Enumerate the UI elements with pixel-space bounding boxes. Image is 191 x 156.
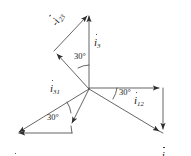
- angle-label-bottom-left: 30°: [47, 113, 59, 122]
- label-i3: i3: [94, 37, 191, 48]
- connector-i23-baseline: [71, 126, 72, 133]
- label-i12-sub: 12: [137, 100, 144, 107]
- connector-i1-to-neg-i31: [159, 131, 163, 133]
- label-i3-sub: 3: [97, 42, 100, 49]
- angle-label-top: 30°: [74, 52, 86, 61]
- angle-arc-top: [78, 65, 89, 68]
- phasor-dot-neg-i31: [163, 147, 165, 149]
- phasor-diagram: -i23 i3 i31 i12 -i31 i2 i23 -i12 i1 30° …: [0, 0, 191, 156]
- angle-arc-bottom-left: [67, 102, 71, 113]
- angle-label-right: 30°: [119, 88, 131, 97]
- phasor-vector-canvas: [0, 0, 191, 156]
- label-i31-sub: 31: [53, 88, 60, 95]
- label-i12: i12: [134, 95, 191, 106]
- label-i2-base: i: [13, 155, 16, 156]
